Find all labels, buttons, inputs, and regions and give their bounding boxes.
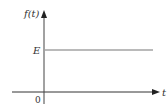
- y-axis-arrow-icon: [41, 10, 47, 18]
- origin-label: 0: [35, 95, 41, 105]
- level-label: E: [32, 45, 41, 56]
- y-axis: [41, 10, 47, 104]
- x-axis-arrow-icon: [152, 89, 160, 95]
- y-axis-label: f(t): [23, 8, 40, 19]
- x-axis-label: t: [162, 87, 167, 98]
- step-function-chart: f(t) E 0 t: [0, 0, 167, 112]
